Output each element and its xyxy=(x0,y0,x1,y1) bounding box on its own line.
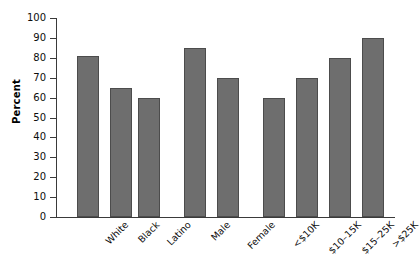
y-tick-label: 70 xyxy=(12,73,46,83)
bar xyxy=(296,78,318,217)
y-tick-label: 100 xyxy=(12,13,46,23)
bar xyxy=(184,48,206,217)
y-tick-label: 90 xyxy=(12,33,46,43)
x-axis-line xyxy=(56,217,395,218)
bar xyxy=(362,38,384,217)
x-axis-label: <$10K xyxy=(290,219,321,250)
y-tick-label: 60 xyxy=(12,93,46,103)
bar xyxy=(110,88,132,217)
x-axis-labels: WhiteBlackLatinoMaleFemale<$10K$10–15K$1… xyxy=(56,219,396,276)
y-tick-label: 20 xyxy=(12,172,46,182)
y-tick-label: 10 xyxy=(12,192,46,202)
y-tick-label: 80 xyxy=(12,53,46,63)
x-axis-label: White xyxy=(103,219,130,246)
bar xyxy=(217,78,239,217)
bar xyxy=(263,98,285,217)
x-axis-label: >$25K xyxy=(389,219,420,250)
y-tick-label: 0 xyxy=(12,212,46,222)
bar xyxy=(329,58,351,217)
x-axis-label: Black xyxy=(136,219,162,245)
y-tick-label: 40 xyxy=(12,132,46,142)
y-tick-label: 30 xyxy=(12,152,46,162)
bars-layer xyxy=(56,18,396,217)
bar xyxy=(77,56,99,217)
x-axis-label: $15–25K xyxy=(359,219,396,256)
x-axis-label: Female xyxy=(245,219,277,251)
x-axis-label: Latino xyxy=(165,219,194,248)
x-axis-label: $10–15K xyxy=(326,219,363,256)
y-tick-label: 50 xyxy=(12,113,46,123)
x-axis-label: Male xyxy=(209,219,233,243)
bar xyxy=(138,98,160,217)
